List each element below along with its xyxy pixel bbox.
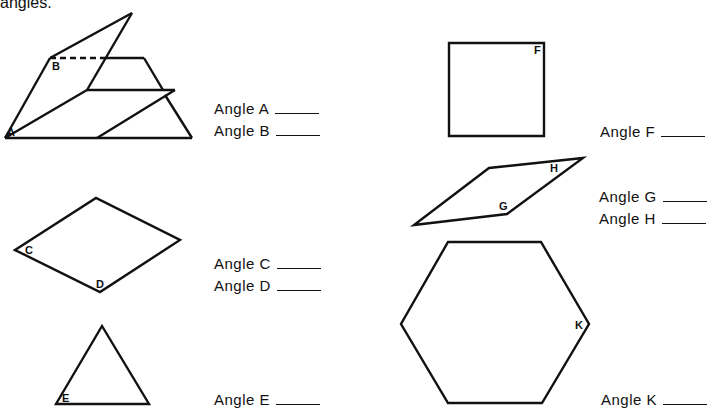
- answer-angle-c: Angle C: [214, 255, 321, 272]
- figure-triangle: E: [56, 326, 149, 404]
- answer-blank-c[interactable]: [277, 256, 321, 269]
- answer-label: Angle G: [599, 188, 657, 205]
- answer-blank-k[interactable]: [663, 392, 707, 405]
- answer-label: Angle K: [601, 391, 657, 408]
- answer-angle-f: Angle F: [600, 123, 705, 140]
- answer-blank-b[interactable]: [276, 123, 320, 136]
- answer-label: Angle D: [214, 277, 271, 294]
- answer-angle-b: Angle B: [214, 122, 320, 139]
- vertex-label-c: C: [25, 244, 33, 256]
- answer-angle-a: Angle A: [214, 100, 319, 117]
- figure-rhombus: C D: [15, 198, 180, 292]
- answer-angle-h: Angle H: [599, 210, 706, 227]
- answer-blank-h[interactable]: [662, 211, 706, 224]
- answer-angle-d: Angle D: [214, 277, 321, 294]
- figure-square: F: [449, 43, 544, 136]
- vertex-label-b: B: [52, 60, 60, 72]
- vertex-label-h: H: [550, 162, 558, 174]
- vertex-label-g: G: [499, 200, 508, 212]
- answer-angle-e: Angle E: [214, 391, 320, 408]
- answer-label: Angle A: [214, 100, 269, 117]
- figure-hexagon: K: [401, 242, 589, 403]
- vertex-label-k: K: [575, 319, 583, 331]
- answer-label: Angle B: [214, 122, 270, 139]
- figure-pattern-blocks: B A: [5, 13, 192, 138]
- answer-angle-g: Angle G: [599, 188, 707, 205]
- figure-thin-rhombus: G H: [414, 158, 583, 225]
- answer-angle-k: Angle K: [601, 391, 707, 408]
- answer-blank-f[interactable]: [661, 124, 705, 137]
- vertex-label-a: A: [7, 126, 15, 138]
- answer-blank-d[interactable]: [277, 278, 321, 291]
- answer-label: Angle E: [214, 391, 270, 408]
- answer-label: Angle F: [600, 123, 655, 140]
- answer-label: Angle C: [214, 255, 271, 272]
- answer-blank-g[interactable]: [663, 189, 707, 202]
- answer-blank-a[interactable]: [275, 101, 319, 114]
- answer-label: Angle H: [599, 210, 656, 227]
- vertex-label-d: D: [96, 278, 104, 290]
- vertex-label-f: F: [534, 44, 541, 56]
- vertex-label-e: E: [62, 392, 69, 404]
- answer-blank-e[interactable]: [276, 392, 320, 405]
